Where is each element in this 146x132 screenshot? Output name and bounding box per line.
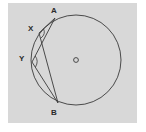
label-b: B	[51, 108, 57, 117]
circle-diagram: A X Y B	[0, 0, 146, 132]
label-a: A	[51, 6, 57, 15]
circle	[31, 15, 121, 105]
label-x: X	[28, 24, 34, 33]
segment-ax	[39, 18, 55, 33]
label-y: Y	[19, 54, 25, 63]
segment-yb	[32, 62, 58, 103]
angle-mark-y	[35, 56, 37, 67]
center-point-o	[74, 58, 79, 63]
